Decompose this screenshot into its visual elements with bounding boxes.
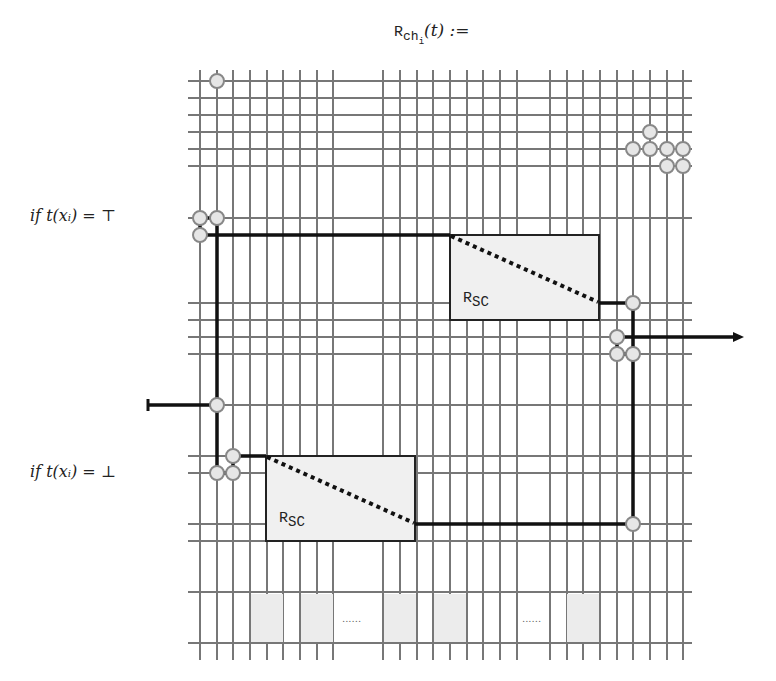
ellipsis-left: ......	[342, 613, 361, 624]
diagram-title: Rchi(t) :=	[394, 20, 470, 47]
ellipsis-right: ......	[522, 613, 541, 624]
grid-lines	[188, 70, 692, 660]
rsc-label-upper: RSC	[463, 290, 489, 310]
condition-true-label: if t(xᵢ) = ⊤	[30, 206, 116, 225]
condition-false-label: if t(xᵢ) = ⊥	[30, 462, 116, 481]
output-arrow-icon	[733, 332, 744, 342]
diagram-canvas: ...... ......	[0, 0, 776, 681]
bottom-row-cells	[251, 594, 599, 642]
rsc-label-lower: RSC	[279, 510, 305, 530]
